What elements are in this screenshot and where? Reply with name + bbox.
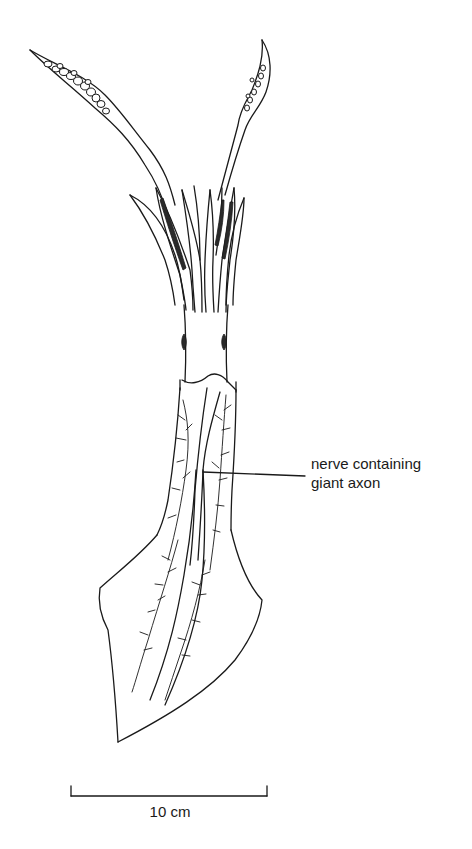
scale-bar <box>71 786 267 796</box>
head <box>182 305 228 382</box>
figure-canvas: nerve containing giant axon 10 cm <box>0 0 472 849</box>
scale-bar-label: 10 cm <box>140 802 200 821</box>
annotation-line-2: giant axon <box>311 473 421 492</box>
mantle-collar <box>180 374 236 392</box>
annotation-leader-line <box>203 472 305 476</box>
arms-cluster <box>130 186 244 312</box>
right-tentacle <box>218 40 270 200</box>
squid-drawing <box>0 0 472 849</box>
annotation-line-1: nerve containing <box>311 454 421 473</box>
nerve-branches <box>132 395 231 700</box>
mantle <box>99 388 262 742</box>
right-eye-icon <box>222 334 227 350</box>
left-eye-icon <box>182 334 187 350</box>
annotation-label: nerve containing giant axon <box>311 454 421 492</box>
left-tentacle <box>30 50 175 215</box>
